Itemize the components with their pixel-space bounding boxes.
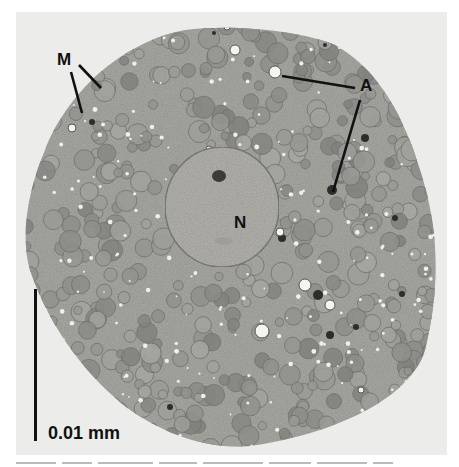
micrograph-figure: M A N 0.01 mm [0,0,459,467]
nucleus-label: N [234,214,246,231]
cell-micrograph [0,0,459,467]
nucleolus [212,170,226,182]
cropped-caption-text [16,462,447,467]
scale-bar [34,289,37,441]
mitochondria-label: M [57,51,71,68]
nucleus [165,147,279,267]
scale-bar-label: 0.01 mm [48,424,120,442]
autophagosome-label: A [360,77,372,94]
